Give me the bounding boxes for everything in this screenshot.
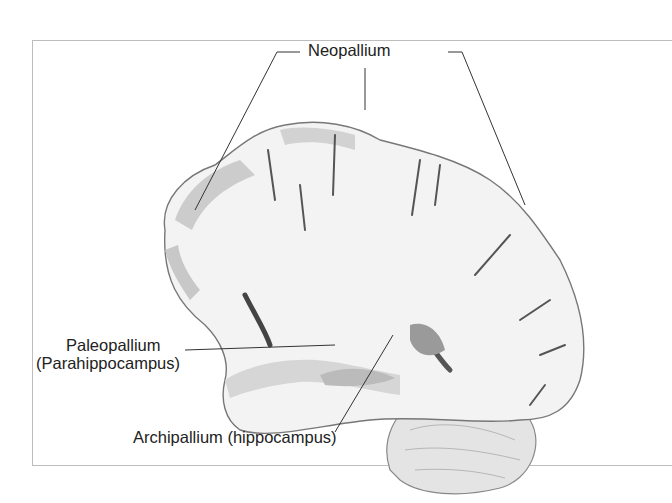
label-parahippocampus: (Parahippocampus): [36, 353, 180, 373]
label-paleopallium: Paleopallium: [66, 335, 160, 355]
label-archipallium: Archipallium (hippocampus): [133, 427, 337, 447]
label-neopallium: Neopallium: [308, 40, 391, 60]
